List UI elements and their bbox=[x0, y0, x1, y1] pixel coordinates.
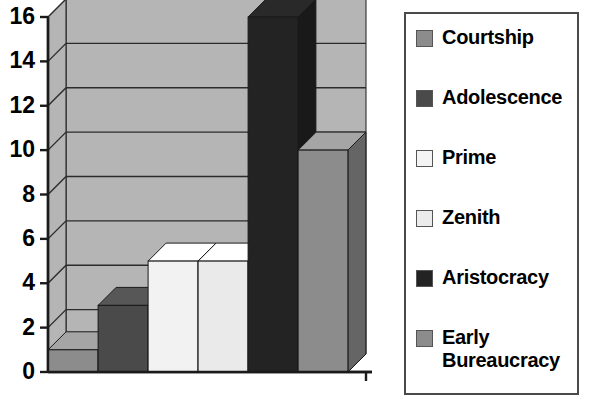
bar-front-face bbox=[248, 17, 298, 372]
bar-front-face bbox=[148, 261, 198, 372]
y-axis-tick-label: 6 bbox=[22, 225, 35, 251]
legend-item[interactable]: Aristocracy bbox=[416, 266, 577, 326]
chart-legend: Courtship Adolescence Prime Zenith Arist… bbox=[404, 12, 579, 395]
bar-front-face bbox=[48, 350, 98, 372]
chart-figure: 1614121086420 Courtship Adolescence Prim… bbox=[0, 0, 591, 410]
y-axis-tick-label: 12 bbox=[9, 92, 35, 118]
legend-item-label: Early Bureaucracy bbox=[442, 326, 560, 372]
bar-front-face bbox=[198, 261, 248, 372]
legend-item[interactable]: Courtship bbox=[416, 26, 577, 86]
legend-item-label: Prime bbox=[442, 146, 496, 169]
bar-chart-plot-area: 1614121086420 bbox=[0, 0, 395, 410]
y-axis-tick-label: 16 bbox=[9, 3, 35, 29]
chart-svg: 1614121086420 bbox=[0, 0, 395, 410]
y-axis-tick-label: 8 bbox=[22, 181, 35, 207]
legend-swatch-icon bbox=[416, 270, 433, 287]
legend-item[interactable]: Adolescence bbox=[416, 86, 577, 146]
legend-swatch-icon bbox=[416, 90, 433, 107]
legend-item[interactable]: Zenith bbox=[416, 206, 577, 266]
bar-front-face bbox=[298, 150, 348, 372]
legend-swatch-icon bbox=[416, 210, 433, 227]
legend-item-label: Courtship bbox=[442, 26, 534, 49]
y-axis-tick-label: 0 bbox=[22, 358, 35, 384]
bar-side-face bbox=[348, 132, 366, 372]
y-axis-tick-label: 2 bbox=[22, 314, 35, 340]
bar-front-face bbox=[98, 305, 148, 372]
legend-swatch-icon bbox=[416, 330, 433, 347]
legend-item-label: Aristocracy bbox=[442, 266, 549, 289]
legend-item[interactable]: Prime bbox=[416, 146, 577, 206]
legend-swatch-icon bbox=[416, 150, 433, 167]
y-axis-tick-label: 14 bbox=[9, 47, 35, 73]
y-axis-tick-label: 4 bbox=[22, 269, 35, 295]
bar-column bbox=[298, 132, 366, 372]
legend-item-label: Adolescence bbox=[442, 86, 562, 109]
legend-swatch-icon bbox=[416, 30, 433, 47]
legend-item-label: Zenith bbox=[442, 206, 500, 229]
y-axis-tick-label: 10 bbox=[9, 136, 35, 162]
legend-item[interactable]: Early Bureaucracy bbox=[416, 326, 577, 386]
